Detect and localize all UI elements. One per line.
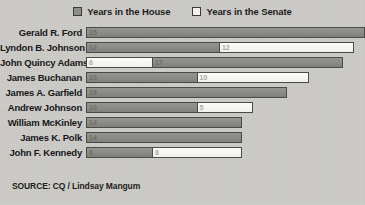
bar-row: William McKinley14 <box>0 116 365 129</box>
bar-track: 1010 <box>86 72 365 83</box>
bar-segment-house[interactable]: 18 <box>86 87 287 98</box>
bar-row: Lyndon B. Johnson1212 <box>0 41 365 54</box>
bar-track: 14 <box>86 132 365 143</box>
bar-segment-house[interactable]: 6 <box>86 147 153 158</box>
bar-segment-senate[interactable]: 12 <box>220 42 354 53</box>
bar-segment-house[interactable]: 12 <box>86 42 220 53</box>
bar-category-label: Lyndon B. Johnson <box>0 42 86 53</box>
bar-value-label: 17 <box>153 59 163 66</box>
bar-value-label: 6 <box>87 149 93 156</box>
bar-category-label: James K. Polk <box>0 132 86 143</box>
bar-value-label: 14 <box>87 134 97 141</box>
bar-chart-plot: Gerald R. Ford25Lyndon B. Johnson1212Joh… <box>0 26 365 161</box>
bar-track: 14 <box>86 117 365 128</box>
bar-value-label: 10 <box>198 74 208 81</box>
bar-row: Andrew Johnson105 <box>0 101 365 114</box>
bar-category-label: Andrew Johnson <box>0 102 86 113</box>
bar-segment-house[interactable]: 14 <box>86 132 242 143</box>
bar-track: 1212 <box>86 42 365 53</box>
legend-label-house: Years in the House <box>87 6 170 17</box>
filled-square-icon <box>73 7 82 16</box>
bar-value-label: 14 <box>87 119 97 126</box>
bar-segment-house[interactable]: 10 <box>86 72 198 83</box>
legend-item-house[interactable]: Years in the House <box>73 6 170 17</box>
bar-value-label: 10 <box>87 104 97 111</box>
chart-legend: Years in the House Years in the Senate <box>0 6 365 17</box>
bar-row: John F. Kennedy68 <box>0 146 365 159</box>
bar-value-label: 10 <box>87 74 97 81</box>
bar-value-label: 12 <box>87 44 97 51</box>
bar-category-label: John Quincy Adams <box>0 57 86 68</box>
bar-value-label: 6 <box>87 59 93 66</box>
source-credit: SOURCE: CQ / Lindsay Mangum <box>12 181 140 191</box>
bar-value-label: 8 <box>153 149 159 156</box>
bar-segment-senate[interactable]: 10 <box>198 72 310 83</box>
bar-track: 25 <box>86 27 365 38</box>
bar-row: James A. Garfield18 <box>0 86 365 99</box>
bar-row: Gerald R. Ford25 <box>0 26 365 39</box>
bar-segment-house[interactable]: 10 <box>86 102 198 113</box>
bar-track: 68 <box>86 147 365 158</box>
bar-track: 18 <box>86 87 365 98</box>
bar-segment-house[interactable]: 25 <box>86 27 365 38</box>
bar-value-label: 18 <box>87 89 97 96</box>
bar-category-label: James Buchanan <box>0 72 86 83</box>
bar-row: John Quincy Adams617 <box>0 56 365 69</box>
bar-segment-senate[interactable]: 8 <box>153 147 242 158</box>
bar-value-label: 25 <box>87 29 97 36</box>
bar-track: 105 <box>86 102 365 113</box>
bar-category-label: Gerald R. Ford <box>0 27 86 38</box>
empty-square-icon <box>192 7 201 16</box>
bar-segment-house[interactable]: 14 <box>86 117 242 128</box>
bar-category-label: William McKinley <box>0 117 86 128</box>
bar-value-label: 12 <box>220 44 230 51</box>
bar-track: 617 <box>86 57 365 68</box>
legend-label-senate: Years in the Senate <box>206 6 291 17</box>
legend-item-senate[interactable]: Years in the Senate <box>192 6 291 17</box>
bar-segment-senate[interactable]: 6 <box>86 57 153 68</box>
bar-value-label: 5 <box>198 104 204 111</box>
chart-card: Years in the House Years in the Senate G… <box>0 0 365 205</box>
bar-category-label: John F. Kennedy <box>0 147 86 158</box>
bar-segment-senate[interactable]: 5 <box>198 102 254 113</box>
bar-category-label: James A. Garfield <box>0 87 86 98</box>
bar-segment-house[interactable]: 17 <box>153 57 343 68</box>
bar-row: James K. Polk14 <box>0 131 365 144</box>
bar-row: James Buchanan1010 <box>0 71 365 84</box>
